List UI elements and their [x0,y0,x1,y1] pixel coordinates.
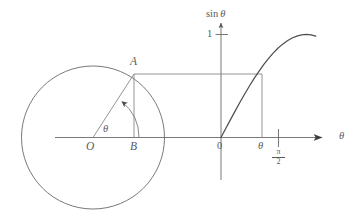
label-pi-over-two: π 2 [272,148,285,167]
radius-segment-oa [93,74,134,138]
angle-arc-theta [122,102,139,138]
two-denominator: 2 [272,158,285,166]
label-angle-theta-circle: θ [103,124,108,135]
label-x-axis-theta: θ [339,131,344,142]
sin-argument-theta: θ [220,8,225,19]
sin-function-name: sin [206,8,218,19]
label-x-origin-zero: 0 [217,141,222,152]
label-y-axis-sin-theta: sinθ [206,9,225,20]
figure-canvas [0,0,362,222]
label-x-theta: θ [258,141,263,152]
sine-curve [221,35,316,138]
sine-circle-figure: A B O θ sinθ 1 0 θ θ π 2 [0,0,362,222]
label-point-a: A [130,56,137,68]
pi-numerator: π [272,148,285,156]
label-point-b: B [130,141,137,153]
label-y-tick-one: 1 [207,29,212,40]
label-origin-o: O [86,141,94,153]
